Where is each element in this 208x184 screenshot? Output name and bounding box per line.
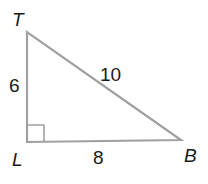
side-label-tb: 10	[100, 64, 121, 85]
vertex-label-b: B	[184, 145, 197, 166]
right-angle-marker	[27, 125, 44, 142]
side-label-tl: 6	[9, 75, 20, 96]
side-label-lb: 8	[93, 147, 104, 168]
triangle-diagram: T L B 6 8 10	[0, 0, 208, 184]
vertex-label-t: T	[12, 9, 25, 30]
vertex-label-l: L	[12, 149, 23, 170]
triangle-tlb	[27, 32, 181, 142]
